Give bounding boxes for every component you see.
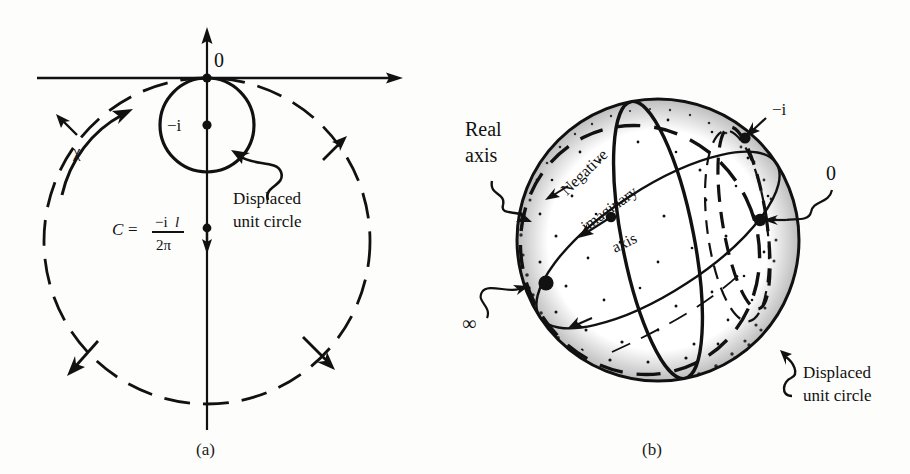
minus-i-point [202, 120, 211, 129]
c-formula-denominator: 2π [156, 237, 172, 253]
outward-arrow-lower-right [303, 337, 335, 370]
panel-a-svg: 0 −i χ [0, 0, 455, 474]
displaced-unit-circle-label-line1: Displaced [233, 189, 301, 208]
minus-i-leader [745, 118, 766, 137]
outward-arrow-upper-left [56, 114, 77, 135]
c-formula-lhs: C [112, 220, 124, 239]
infinity-leader [481, 285, 529, 318]
displaced-unit-circle-label-line1-sphere: Displaced [803, 363, 871, 382]
zero-label-sphere: 0 [826, 162, 836, 184]
chi-label: χ [72, 142, 81, 161]
c-formula-numerator-italic: l [175, 214, 179, 230]
displaced-unit-circle-label-line2-sphere: unit circle [803, 386, 871, 405]
panel-a-complex-plane: 0 −i χ [0, 0, 455, 474]
displaced-unit-circle-leader-sphere [780, 350, 795, 396]
infinity-label: ∞ [462, 312, 476, 334]
panel-b-riemann-sphere: Real axis Negative imaginary axis −i 0 [455, 0, 910, 474]
caption-panel-b: (b) [642, 440, 662, 460]
displaced-unit-circle-label-line2: unit circle [233, 212, 301, 231]
origin-label: 0 [214, 49, 224, 71]
minus-i-label-sphere: −i [772, 100, 787, 119]
panel-b-svg: Real axis Negative imaginary axis −i 0 [455, 0, 910, 474]
c-point-arrow [202, 228, 212, 254]
caption-panel-a: (a) [196, 440, 215, 460]
real-axis-label-line1: Real [465, 118, 502, 140]
minus-i-label: −i [167, 116, 182, 135]
c-formula-numerator: −i [155, 214, 168, 230]
point-infinity [538, 275, 553, 290]
figure-root: 0 −i χ [0, 0, 910, 474]
real-axis-label-line2: axis [465, 144, 497, 166]
c-formula: C = −i l 2π [112, 214, 184, 253]
c-formula-equals: = [128, 220, 138, 239]
